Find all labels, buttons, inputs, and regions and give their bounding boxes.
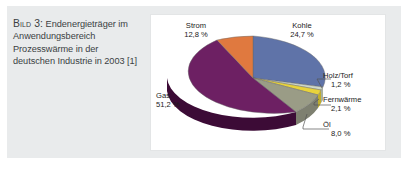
pie-label-strom-value: 12,8 % xyxy=(173,30,219,39)
pie-label-fernwaerme-value: 2,1 % xyxy=(323,104,381,113)
pie-label-fernwaerme: Fernwärme 2,1 % xyxy=(323,95,381,113)
pie-chart-card: Strom 12,8 % Kohle 24,7 % Holz/Torf 1,2 … xyxy=(150,14,386,151)
pie-label-fernwaerme-name: Fernwärme xyxy=(323,95,381,104)
pie-label-kohle: Kohle 24,7 % xyxy=(279,21,325,39)
pie-label-holztorf-value: 1,2 % xyxy=(323,80,381,89)
pie-label-oel-value: 8,0 % xyxy=(323,129,381,138)
pie-label-strom: Strom 12,8 % xyxy=(173,21,219,39)
pie-label-strom-name: Strom xyxy=(173,21,219,30)
pie-label-kohle-value: 24,7 % xyxy=(279,30,325,39)
pie-label-gas-value: 51,2 % xyxy=(156,100,210,109)
figure-caption: Bild 3: Endenergieträger im Anwendungsbe… xyxy=(13,18,141,68)
pie-label-holztorf: Holz/Torf 1,2 % xyxy=(323,71,381,89)
pie-label-kohle-name: Kohle xyxy=(279,21,325,30)
caption-label: Bild 3: xyxy=(13,18,43,29)
pie-label-gas: Gas 51,2 % xyxy=(156,91,210,109)
pie-label-oel-name: Öl xyxy=(323,120,381,129)
pie-label-gas-name: Gas xyxy=(156,91,210,100)
pie-label-holztorf-name: Holz/Torf xyxy=(323,71,381,80)
pie-label-oel: Öl 8,0 % xyxy=(323,120,381,138)
figure-root: Bild 3: Endenergieträger im Anwendungsbe… xyxy=(0,0,415,175)
